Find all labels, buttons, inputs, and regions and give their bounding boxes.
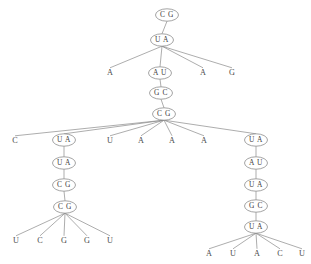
base-pair-node: U A <box>151 34 174 46</box>
base-leaf-node: G <box>229 68 235 77</box>
base-pair-node: U A <box>53 134 76 146</box>
tree-edge <box>233 233 256 249</box>
node-label: G <box>229 68 235 77</box>
base-pair-node: G C <box>245 200 268 212</box>
node-label: A <box>201 136 207 145</box>
base-leaf-node: A <box>200 68 206 77</box>
tree-edge <box>15 120 164 136</box>
base-pair-node: G C <box>150 87 173 99</box>
node-label: U <box>107 136 113 145</box>
tree-edge <box>209 233 256 249</box>
tree-edge <box>64 191 65 201</box>
base-leaf-node: U <box>107 236 113 245</box>
base-leaf-node: A <box>169 136 175 145</box>
node-label: U <box>299 249 305 258</box>
base-leaf-node: U <box>299 249 305 258</box>
node-label: A <box>169 136 175 145</box>
node-label: C <box>12 136 18 145</box>
rna-structure-tree-figure: C GU AAA UAGG CC GCU AUAAAU AU AC GC GUC… <box>0 0 311 264</box>
node-label: U A <box>249 222 263 231</box>
tree-edge <box>160 79 161 87</box>
tree-edge <box>65 213 110 236</box>
base-leaf-node: G <box>61 236 67 245</box>
node-label: A <box>107 68 113 77</box>
tree-edge <box>110 46 162 68</box>
node-label: U A <box>155 35 169 44</box>
base-pair-node: A U <box>245 157 268 169</box>
tree-canvas: C GU AAA UAGG CC GCU AUAAAU AU AC GC GUC… <box>0 0 311 264</box>
node-label: A <box>200 68 206 77</box>
base-pair-node: C G <box>156 9 179 21</box>
node-label: C <box>37 236 43 245</box>
tree-edge <box>16 213 65 236</box>
node-label: G C <box>249 201 263 210</box>
node-label: G <box>84 236 90 245</box>
base-pair-node: U A <box>245 179 268 191</box>
node-label: A U <box>153 68 167 77</box>
node-label: U <box>230 249 236 258</box>
base-pair-node: C G <box>53 179 76 191</box>
tree-edge <box>256 233 280 249</box>
tree-edge <box>161 99 164 108</box>
node-label: U A <box>249 180 263 189</box>
base-leaf-node: U <box>13 236 19 245</box>
node-label: U <box>13 236 19 245</box>
node-label: C G <box>58 202 72 211</box>
node-label: U <box>107 236 113 245</box>
tree-edge <box>164 120 256 134</box>
base-leaf-node: C <box>12 136 18 145</box>
base-pair-node: C G <box>54 201 77 213</box>
base-leaf-node: A <box>138 136 144 145</box>
base-leaf-node: U <box>107 136 113 145</box>
base-pair-node: C G <box>153 108 176 120</box>
base-leaf-node: A <box>107 68 113 77</box>
base-pair-node: U A <box>245 221 268 233</box>
node-label: C G <box>57 180 71 189</box>
node-label: C <box>277 249 283 258</box>
node-label: G C <box>154 88 168 97</box>
base-leaf-node: A <box>201 136 207 145</box>
node-label: C G <box>157 109 171 118</box>
node-label: A U <box>249 158 263 167</box>
base-leaf-node: C <box>37 236 43 245</box>
base-pair-node: U A <box>53 157 76 169</box>
tree-edge <box>64 213 65 236</box>
base-leaf-node: A <box>254 249 260 258</box>
tree-edge <box>110 120 164 136</box>
node-label: U A <box>249 135 263 144</box>
base-pair-node: U A <box>245 134 268 146</box>
node-label: G <box>61 236 67 245</box>
tree-edge <box>162 21 167 34</box>
node-label: U A <box>57 135 71 144</box>
node-label: U A <box>57 158 71 167</box>
node-label: A <box>254 249 260 258</box>
tree-edge <box>40 213 65 236</box>
tree-edge <box>160 46 162 67</box>
tree-edge <box>256 233 257 249</box>
tree-edge <box>164 120 204 136</box>
base-leaf-node: A <box>206 249 212 258</box>
node-label: A <box>206 249 212 258</box>
base-leaf-node: G <box>84 236 90 245</box>
base-pair-node: A U <box>149 67 172 79</box>
node-label: C G <box>160 10 174 19</box>
tree-edge <box>256 233 302 249</box>
base-leaf-node: U <box>230 249 236 258</box>
base-leaf-node: C <box>277 249 283 258</box>
tree-edge <box>65 213 87 236</box>
node-label: A <box>138 136 144 145</box>
tree-edge <box>64 120 164 134</box>
